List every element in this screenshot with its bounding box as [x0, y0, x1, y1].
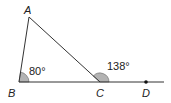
angle-label-b: 80°: [29, 65, 46, 77]
segment-ab: [19, 17, 29, 82]
point-d-dot: [144, 80, 148, 84]
label-b: B: [8, 87, 15, 99]
triangle-diagram: A B C D 80° 138°: [0, 0, 171, 103]
label-d: D: [142, 87, 150, 99]
label-a: A: [23, 4, 31, 16]
angle-label-c-exterior: 138°: [107, 60, 130, 72]
label-c: C: [96, 87, 104, 99]
